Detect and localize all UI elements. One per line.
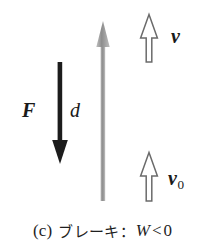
vector-diagram: F d v v0 xyxy=(0,0,205,212)
displacement-arrow-d xyxy=(96,21,109,201)
force-label: F xyxy=(22,100,35,120)
caption-index: (c) xyxy=(33,221,52,241)
caption-formula-value: 0 xyxy=(164,221,173,240)
force-arrow-F xyxy=(52,62,68,164)
velocity-final-arrow-v xyxy=(141,15,158,63)
velocity-initial-label: v0 xyxy=(168,168,184,191)
figure-container: F d v v0 (c) ブレーキ： W<0 xyxy=(0,0,205,247)
caption-formula-relation: < xyxy=(152,221,162,240)
caption-formula-symbol: W xyxy=(136,221,150,240)
velocity-final-label: v xyxy=(171,26,180,46)
caption-text: ブレーキ： xyxy=(58,220,135,241)
velocity-initial-arrow-v0 xyxy=(141,153,158,202)
velocity-initial-base: v xyxy=(168,167,177,189)
displacement-label: d xyxy=(70,100,80,120)
figure-caption: (c) ブレーキ： W<0 xyxy=(0,214,205,247)
caption-formula: W<0 xyxy=(136,221,172,241)
velocity-initial-subscript: 0 xyxy=(177,177,184,192)
